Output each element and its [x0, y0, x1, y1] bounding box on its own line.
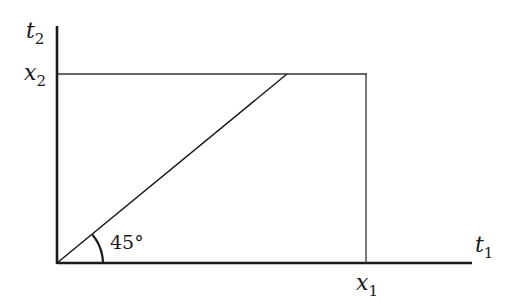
diagram-canvas: 45° t2 x2 t1 x1: [0, 0, 512, 304]
horizontal-axis-label: t1: [475, 232, 493, 262]
x-tick-label-x1: x1: [356, 270, 378, 300]
angle-label: 45°: [110, 231, 144, 253]
angle-arc: [93, 235, 104, 263]
vertical-axis-label: t2: [26, 18, 44, 48]
y-tick-label-x2: x2: [24, 60, 46, 90]
diagonal-45-line: [57, 74, 287, 263]
